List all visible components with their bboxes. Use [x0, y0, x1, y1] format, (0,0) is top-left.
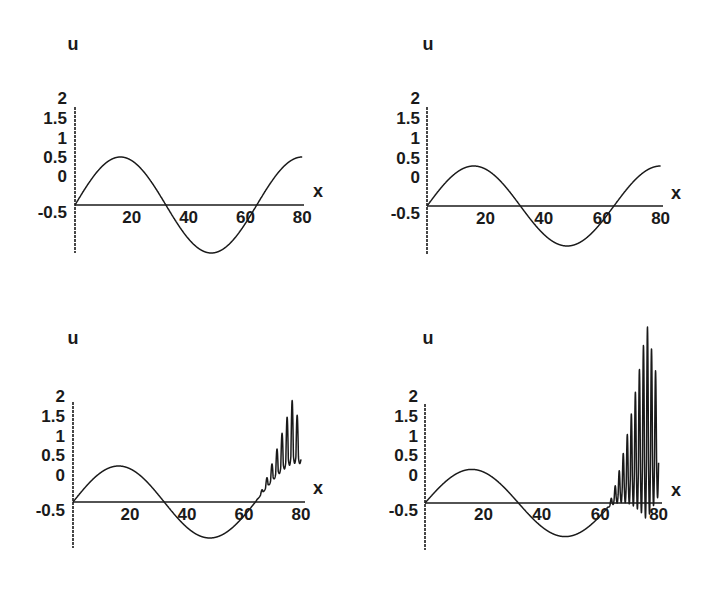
x-tick-label: 80 — [651, 209, 670, 228]
y-tick-label: 1.5 — [394, 407, 418, 426]
y-tick-label: -0.5 — [36, 501, 65, 520]
x-tick-label: 20 — [476, 209, 495, 228]
figure-canvas: 21.510.50-0.520406080ux 21.510.50-0.5204… — [0, 0, 716, 594]
plot-panel-top-left: 21.510.50-0.520406080ux — [38, 34, 323, 253]
x-axis-label: x — [313, 478, 323, 498]
x-tick-label: 80 — [292, 505, 311, 524]
x-tick-label: 20 — [121, 505, 140, 524]
y-tick-label: 2 — [58, 89, 67, 108]
y-axis-label: u — [68, 34, 79, 54]
y-tick-label: 0.5 — [43, 148, 67, 167]
y-tick-label: -0.5 — [389, 501, 418, 520]
y-tick-label: 1 — [56, 427, 65, 446]
y-tick-label: -0.5 — [391, 204, 420, 223]
y-tick-label: 0 — [411, 168, 420, 187]
x-tick-label: 80 — [649, 505, 668, 524]
y-tick-label: 2 — [56, 387, 65, 406]
y-axis-label: u — [68, 328, 79, 348]
y-tick-label: 1 — [411, 129, 420, 148]
x-axis-label: x — [671, 183, 681, 203]
y-tick-label: 0 — [58, 167, 67, 186]
y-axis-label: u — [423, 328, 434, 348]
x-axis-label: x — [671, 480, 681, 500]
x-tick-label: 40 — [179, 208, 198, 227]
y-tick-label: 1.5 — [43, 109, 67, 128]
y-tick-label: 1.5 — [41, 407, 65, 426]
y-tick-label: 0.5 — [396, 149, 420, 168]
x-tick-label: 20 — [122, 208, 141, 227]
y-tick-label: 2 — [409, 387, 418, 406]
y-tick-label: 1.5 — [396, 109, 420, 128]
x-tick-label: 40 — [534, 209, 553, 228]
y-tick-label: 1 — [409, 427, 418, 446]
y-tick-label: 0 — [56, 466, 65, 485]
y-tick-label: 0.5 — [41, 446, 65, 465]
y-tick-label: 0.5 — [394, 446, 418, 465]
x-axis-label: x — [313, 181, 323, 201]
x-tick-label: 20 — [474, 505, 493, 524]
plot-panel-bottom-right: 21.510.50-0.520406080ux — [389, 327, 681, 550]
y-axis-label: u — [423, 34, 434, 54]
y-tick-label: 2 — [411, 89, 420, 108]
plot-panel-top-right: 21.510.50-0.520406080ux — [391, 34, 681, 255]
x-tick-label: 80 — [293, 208, 312, 227]
y-tick-label: 0 — [409, 466, 418, 485]
y-tick-label: -0.5 — [38, 203, 67, 222]
y-tick-label: 1 — [58, 129, 67, 148]
plot-panel-bottom-left: 21.510.50-0.520406080ux — [36, 328, 323, 548]
